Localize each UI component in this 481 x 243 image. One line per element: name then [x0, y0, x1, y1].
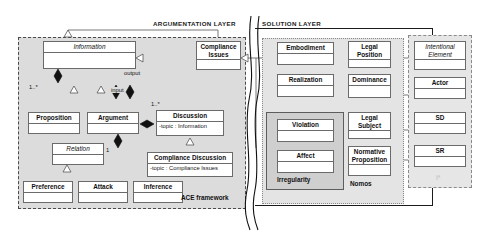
class-sr-name: SR: [415, 146, 465, 157]
class-dominance-name: Dominance: [349, 75, 390, 86]
edge-label-multiplicity-information: 1..*: [29, 84, 38, 90]
class-proposition-name: Proposition: [29, 113, 79, 124]
class-attack-body: [79, 193, 127, 202]
class-attack-name: Attack: [79, 182, 127, 193]
class-relation-name: Relation: [53, 144, 103, 155]
class-discussion[interactable]: Discussion -topic : Information: [156, 110, 224, 136]
class-preference-body: [24, 193, 72, 202]
class-realization[interactable]: Realization: [277, 74, 334, 97]
class-embodiment-name: Embodiment: [278, 43, 333, 54]
group-label-istar: i*: [436, 174, 440, 181]
class-normative-proposition[interactable]: Normative Proposition: [348, 146, 391, 176]
class-sr[interactable]: SR: [414, 145, 466, 167]
generalization-triangle-information-top: [64, 30, 72, 37]
class-violation-body: [278, 131, 333, 141]
layer-title-solution: SOLUTION LAYER: [262, 20, 321, 27]
class-compliance-issues[interactable]: Compliance Issues: [196, 41, 241, 70]
class-affect-body: [278, 162, 333, 172]
class-relation[interactable]: Relation: [52, 143, 104, 165]
group-label-irregularity: Irregularity: [277, 176, 310, 183]
class-sr-body: [415, 157, 465, 166]
class-legal-subject-body: [349, 131, 390, 138]
class-sd-body: [415, 124, 465, 133]
class-actor[interactable]: Actor: [414, 77, 466, 99]
class-actor-body: [415, 89, 465, 98]
class-proposition[interactable]: Proposition: [28, 112, 80, 134]
class-argument-name: Argument: [88, 113, 138, 124]
class-compliance-issues-body: [197, 60, 240, 69]
class-embodiment[interactable]: Embodiment: [277, 42, 334, 65]
class-legal-position-body: [349, 60, 390, 67]
class-discussion-attributes: -topic : Information: [157, 122, 223, 135]
edge-label-output: output: [123, 70, 141, 76]
class-realization-body: [278, 86, 333, 96]
class-compliance-discussion-attributes: -topic : Compliance Issues: [148, 164, 232, 176]
edge-label-multiplicity-discussion: 1..*: [151, 101, 160, 107]
class-argument[interactable]: Argument: [87, 112, 139, 134]
class-preference[interactable]: Preference: [23, 181, 73, 203]
class-inference-body: [134, 193, 182, 202]
class-discussion-name: Discussion: [157, 111, 223, 122]
class-sd-name: SD: [415, 113, 465, 124]
class-compliance-discussion-name: Compliance Discussion: [148, 153, 232, 164]
class-actor-name: Actor: [415, 78, 465, 89]
class-argument-body: [88, 124, 138, 133]
class-legal-subject-name: Legal Subject: [349, 113, 390, 131]
class-legal-subject[interactable]: Legal Subject: [348, 112, 391, 139]
class-violation[interactable]: Violation: [277, 119, 334, 142]
layer-title-argumentation: ARGUMENTATION LAYER: [153, 20, 236, 27]
class-affect[interactable]: Affect: [277, 150, 334, 173]
edge-label-input: input: [110, 87, 125, 93]
class-intentional-element-body: [415, 60, 465, 69]
edge-label-multiplicity-relation: 1: [106, 147, 109, 153]
class-sd[interactable]: SD: [414, 112, 466, 134]
class-intentional-element[interactable]: Intentional Element: [414, 41, 466, 70]
class-proposition-body: [29, 124, 79, 133]
class-embodiment-body: [278, 54, 333, 64]
group-label-nomos: Nomos: [350, 180, 372, 187]
class-violation-name: Violation: [278, 120, 333, 131]
class-legal-position-name: Legal Position: [349, 42, 390, 60]
class-relation-body: [53, 155, 103, 164]
class-realization-name: Realization: [278, 75, 333, 86]
class-information[interactable]: Information: [43, 41, 136, 69]
class-preference-name: Preference: [24, 182, 72, 193]
class-information-body: [44, 53, 135, 68]
class-intentional-element-name: Intentional Element: [415, 42, 465, 60]
group-label-ace-framework: ACE framework: [181, 194, 229, 201]
class-information-name: Information: [44, 42, 135, 53]
class-inference-name: Inference: [134, 182, 182, 193]
class-attack[interactable]: Attack: [78, 181, 128, 203]
class-normative-proposition-name: Normative Proposition: [349, 147, 390, 165]
class-compliance-discussion[interactable]: Compliance Discussion -topic : Complianc…: [147, 152, 233, 177]
class-normative-proposition-body: [349, 165, 390, 175]
class-compliance-issues-name: Compliance Issues: [197, 42, 240, 60]
class-legal-position[interactable]: Legal Position: [348, 41, 391, 68]
class-dominance-body: [349, 86, 390, 97]
class-dominance[interactable]: Dominance: [348, 74, 391, 98]
class-affect-name: Affect: [278, 151, 333, 162]
class-inference[interactable]: Inference: [133, 181, 183, 203]
diagram-canvas: Information Compliance Issues Propositio…: [0, 0, 481, 243]
